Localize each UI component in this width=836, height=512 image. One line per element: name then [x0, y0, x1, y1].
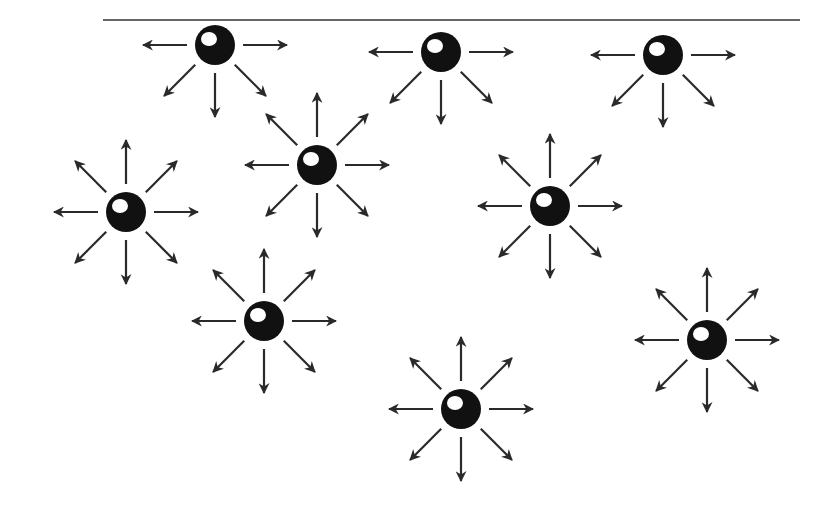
- molecule-bulk-6: [389, 337, 533, 481]
- sphere-highlight: [250, 308, 266, 322]
- force-arrow-icon: [461, 72, 492, 103]
- molecule-surface-1: [143, 25, 287, 117]
- molecule-bulk-3: [478, 134, 622, 278]
- force-arrow-icon: [727, 360, 758, 391]
- force-arrow-icon: [266, 114, 297, 145]
- molecular-forces-diagram: [0, 0, 836, 512]
- sphere-highlight: [649, 42, 665, 56]
- force-arrow-icon: [499, 226, 530, 257]
- force-arrow-icon: [213, 341, 244, 372]
- molecule-sphere-icon: [530, 186, 570, 226]
- force-arrow-icon: [656, 360, 687, 391]
- force-arrow-icon: [146, 161, 177, 192]
- force-arrow-icon: [656, 289, 687, 320]
- force-arrow-icon: [727, 289, 758, 320]
- molecule-bulk-4: [192, 249, 336, 393]
- force-arrow-icon: [164, 65, 195, 96]
- molecule-bulk-2: [54, 140, 198, 284]
- molecule-sphere-icon: [441, 389, 481, 429]
- force-arrow-icon: [235, 65, 266, 96]
- force-arrow-icon: [75, 161, 106, 192]
- force-arrow-icon: [570, 155, 601, 186]
- force-arrow-icon: [75, 232, 106, 263]
- force-arrow-icon: [337, 185, 368, 216]
- sphere-highlight: [201, 32, 217, 46]
- molecule-sphere-icon: [106, 192, 146, 232]
- force-arrow-icon: [612, 75, 643, 106]
- force-arrow-icon: [146, 232, 177, 263]
- force-arrow-icon: [284, 341, 315, 372]
- sphere-highlight: [693, 327, 709, 341]
- force-arrow-icon: [284, 270, 315, 301]
- molecule-bulk-5: [635, 268, 779, 412]
- force-arrow-icon: [410, 358, 441, 389]
- sphere-highlight: [536, 193, 552, 207]
- sphere-highlight: [427, 39, 443, 53]
- force-arrow-icon: [683, 75, 714, 106]
- molecule-sphere-icon: [643, 35, 683, 75]
- molecule-sphere-icon: [195, 25, 235, 65]
- force-arrow-icon: [481, 429, 512, 460]
- force-arrow-icon: [499, 155, 530, 186]
- molecule-bulk-1: [245, 93, 389, 237]
- force-arrow-icon: [410, 429, 441, 460]
- molecule-surface-2: [369, 32, 513, 124]
- sphere-highlight: [447, 396, 463, 410]
- molecules-group: [54, 25, 779, 481]
- sphere-highlight: [112, 199, 128, 213]
- force-arrow-icon: [570, 226, 601, 257]
- force-arrow-icon: [266, 185, 297, 216]
- molecule-sphere-icon: [297, 145, 337, 185]
- force-arrow-icon: [481, 358, 512, 389]
- sphere-highlight: [303, 152, 319, 166]
- molecule-sphere-icon: [421, 32, 461, 72]
- molecule-sphere-icon: [687, 320, 727, 360]
- force-arrow-icon: [213, 270, 244, 301]
- force-arrow-icon: [390, 72, 421, 103]
- molecule-sphere-icon: [244, 301, 284, 341]
- force-arrow-icon: [337, 114, 368, 145]
- molecule-surface-3: [591, 35, 735, 127]
